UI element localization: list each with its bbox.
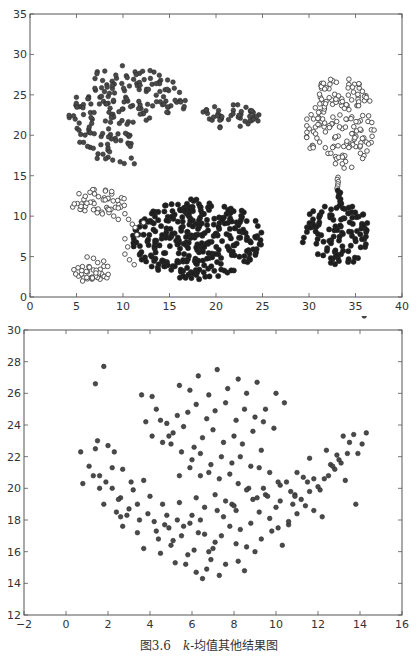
scatter-point: [274, 505, 279, 510]
scatter-point: [334, 80, 339, 85]
scatter-point: [323, 130, 328, 135]
scatter-point: [103, 69, 108, 74]
scatter-point: [209, 557, 214, 562]
scatter-point: [217, 573, 222, 578]
scatter-point: [361, 223, 366, 228]
scatter-point: [255, 380, 260, 385]
scatter-point: [95, 156, 100, 161]
scatter-point: [194, 245, 199, 250]
scatter-point: [198, 451, 203, 456]
x-tick-label: 40: [395, 300, 409, 313]
scatter-point: [169, 202, 174, 207]
scatter-point: [118, 138, 123, 143]
scatter-point: [346, 249, 351, 254]
scatter-point: [232, 504, 237, 509]
scatter-point: [364, 431, 369, 436]
scatter-point: [223, 499, 228, 504]
scatter-point: [288, 489, 293, 494]
scatter-point: [316, 110, 321, 115]
scatter-point: [322, 477, 327, 482]
scatter-point: [327, 227, 332, 232]
scatter-point: [341, 248, 346, 253]
scatter-point: [153, 240, 158, 245]
scatter-point: [231, 103, 236, 108]
scatter-point: [72, 267, 77, 272]
x-tick-label: 0: [63, 618, 70, 631]
scatter-point: [350, 131, 355, 136]
scatter-point: [338, 113, 343, 118]
scatter-point: [107, 207, 112, 212]
scatter-point: [209, 462, 214, 467]
y-tick-label: 26: [7, 387, 21, 400]
scatter-point: [227, 226, 232, 231]
scatter-point: [196, 258, 201, 263]
scatter-point: [88, 131, 93, 136]
scatter-point: [291, 502, 296, 507]
scatter-point: [87, 265, 92, 270]
scatter-point: [177, 500, 182, 505]
scatter-point: [120, 467, 125, 472]
scatter-point: [158, 89, 163, 94]
scatter-point: [112, 91, 117, 96]
scatter-point: [347, 220, 352, 225]
scatter-point: [75, 105, 80, 110]
scatter-point: [156, 218, 161, 223]
scatter-point: [141, 220, 146, 225]
x-tick-label: 30: [302, 300, 316, 313]
scatter-point: [342, 216, 347, 221]
scatter-point: [186, 246, 191, 251]
x-tick-label: 16: [395, 618, 409, 631]
scatter-point: [344, 117, 349, 122]
scatter-point: [324, 448, 329, 453]
scatter-point: [244, 249, 249, 254]
scatter-point: [341, 434, 346, 439]
scatter-point: [132, 162, 137, 167]
scatter-point: [108, 106, 113, 111]
scatter-point: [114, 73, 119, 78]
scatter-point: [162, 523, 167, 528]
scatter-chart-bottom: −2024681012141612141618202224262830: [0, 316, 418, 636]
scatter-point: [142, 77, 147, 82]
scatter-point: [79, 204, 84, 209]
scatter-point: [360, 113, 365, 118]
scatter-point: [177, 383, 182, 388]
scatter-point: [77, 128, 82, 133]
scatter-point: [206, 240, 211, 245]
scatter-point: [81, 481, 86, 486]
scatter-point: [316, 116, 321, 121]
scatter-point: [157, 73, 162, 78]
scatter-point: [257, 465, 262, 470]
scatter-point: [243, 119, 248, 124]
scatter-point: [129, 156, 134, 161]
scatter-point: [128, 144, 133, 149]
scatter-point: [284, 480, 289, 485]
scatter-point: [154, 529, 159, 534]
scatter-point: [360, 156, 365, 161]
scatter-point: [137, 518, 142, 523]
scatter-point: [154, 81, 159, 86]
scatter-point: [198, 518, 203, 523]
scatter-point: [235, 103, 240, 108]
scatter-point: [220, 239, 225, 244]
scatter-point: [137, 243, 142, 248]
scatter-point: [186, 553, 191, 558]
scatter-point: [253, 218, 258, 223]
caption-figure-number: 图3.6: [140, 639, 171, 653]
scatter-point: [242, 407, 247, 412]
scatter-point: [95, 260, 100, 265]
scatter-point: [346, 86, 351, 91]
scatter-point: [238, 124, 243, 129]
scatter-point: [255, 496, 260, 501]
scatter-point: [110, 83, 115, 88]
scatter-point: [216, 224, 221, 229]
scatter-point: [105, 264, 110, 269]
scatter-point: [171, 431, 176, 436]
scatter-point: [229, 268, 234, 273]
scatter-point: [139, 393, 144, 398]
data-points: [78, 316, 368, 581]
scatter-point: [182, 104, 187, 109]
scatter-point: [202, 263, 207, 268]
scatter-point: [211, 428, 216, 433]
scatter-point: [311, 209, 316, 214]
scatter-point: [207, 470, 212, 475]
